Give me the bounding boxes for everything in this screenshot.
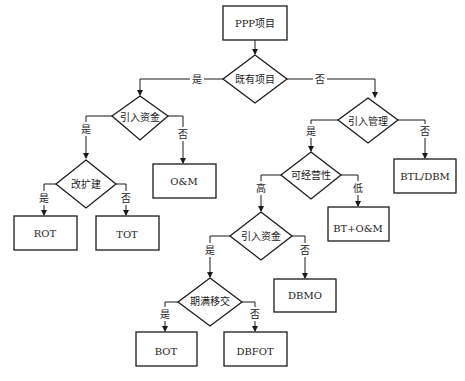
node-label: 引入管理 — [348, 115, 388, 127]
node-label: 期满移交 — [190, 295, 230, 307]
decision-existing-project: 既有项目 — [223, 55, 287, 103]
node-label: BOT — [155, 346, 178, 357]
node-om: O&M — [153, 164, 216, 198]
edge-label-no: 否 — [121, 193, 131, 204]
node-label: PPP项目 — [235, 18, 275, 29]
node-dbmo: DBMO — [274, 279, 336, 312]
node-label: 既有项目 — [235, 73, 275, 85]
node-rot: ROT — [14, 216, 77, 250]
decision-introduce-management: 引入管理 — [338, 98, 398, 143]
edge-existing-no — [287, 79, 375, 97]
edge-label-yes: 是 — [205, 245, 215, 256]
edge-label-yes: 是 — [306, 126, 316, 137]
edge-label-yes: 是 — [192, 74, 202, 85]
node-bot: BOT — [136, 332, 197, 366]
node-label: 改扩建 — [71, 178, 101, 190]
node-dbfot: DBFOT — [224, 332, 287, 366]
edge-label-no: 否 — [300, 245, 310, 256]
decision-renovation: 改扩建 — [56, 160, 116, 208]
edge-label-yes: 是 — [39, 193, 49, 204]
node-ppp-project: PPP项目 — [223, 6, 287, 40]
node-btl-dbm: BTL/DBM — [394, 159, 456, 193]
node-label: O&M — [170, 176, 197, 187]
node-label: 引入资金 — [241, 230, 281, 242]
node-label: TOT — [116, 229, 138, 240]
node-label: DBMO — [288, 290, 322, 301]
node-label: BTL/DBM — [400, 171, 450, 182]
edge-label-low: 低 — [353, 182, 363, 194]
edge-label-no: 否 — [250, 309, 260, 320]
decision-operability: 可经营性 — [281, 152, 341, 199]
edge-label-no: 否 — [420, 126, 430, 137]
edge-label-no: 否 — [315, 74, 325, 85]
flowchart-svg: 是 否 是 否 是 否 是 否 高 低 是 否 是 否 PPP项目 既有项目 — [0, 0, 465, 381]
node-label: ROT — [34, 228, 57, 239]
edge-label-high: 高 — [256, 182, 266, 194]
edge-label-yes: 是 — [160, 309, 170, 320]
decision-introduce-funds-2: 引入资金 — [230, 212, 292, 260]
node-bt-om: BT+O&M — [328, 207, 389, 241]
ppp-decision-flowchart: 是 否 是 否 是 否 是 否 高 低 是 否 是 否 PPP项目 既有项目 — [0, 0, 465, 381]
edge-label-no: 否 — [178, 129, 188, 140]
node-label: DBFOT — [236, 346, 274, 357]
node-label: 引入资金 — [120, 111, 160, 123]
node-label: 可经营性 — [291, 169, 331, 181]
node-tot: TOT — [96, 216, 159, 250]
decision-introduce-funds: 引入资金 — [112, 96, 168, 140]
decision-transfer-at-expiry: 期满移交 — [178, 278, 242, 326]
edge-existing-yes — [140, 79, 223, 95]
node-label: BT+O&M — [333, 223, 383, 234]
edge-label-yes: 是 — [81, 124, 91, 135]
